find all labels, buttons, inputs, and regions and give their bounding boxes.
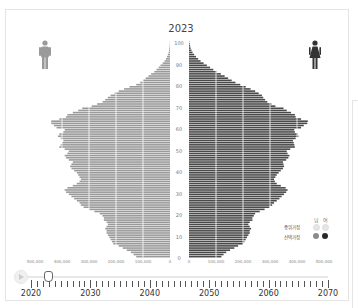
year-tick[interactable] <box>156 281 157 287</box>
x-tick-label: 500,000 <box>309 259 339 264</box>
timeline-track[interactable] <box>28 276 328 278</box>
legend-selected-female-swatch[interactable] <box>322 233 328 239</box>
year-tick[interactable] <box>61 281 62 287</box>
year-tick[interactable] <box>298 281 299 287</box>
year-tick[interactable] <box>227 281 228 287</box>
x-tick-label: 200,000 <box>101 259 131 264</box>
year-tick[interactable] <box>203 281 204 287</box>
year-tick[interactable] <box>215 281 216 287</box>
legend-male-header: 남 <box>314 216 319 223</box>
legend-selected-male-swatch[interactable] <box>313 233 319 239</box>
year-tick[interactable] <box>251 281 252 287</box>
year-tick[interactable] <box>257 281 258 287</box>
year-tick[interactable] <box>286 281 287 287</box>
year-tick[interactable] <box>162 281 163 287</box>
year-tick[interactable] <box>102 281 103 287</box>
age-tick-label: 90 <box>169 62 189 68</box>
legend: 남 여 중위가정 선택가정 <box>284 216 330 246</box>
year-tick[interactable] <box>221 281 222 287</box>
year-tick[interactable] <box>322 281 323 287</box>
age-tick-label: 50 <box>169 148 189 154</box>
year-tick[interactable] <box>150 280 151 288</box>
year-tick[interactable] <box>191 281 192 287</box>
age-tick-label: 70 <box>169 105 189 111</box>
legend-medium-female-swatch[interactable] <box>322 224 329 231</box>
age-tick-label: 100 <box>169 40 189 46</box>
year-tick[interactable] <box>292 281 293 287</box>
year-tick[interactable] <box>43 281 44 287</box>
age-tick-label: 30 <box>169 191 189 197</box>
x-tick-label: 500,000 <box>20 259 50 264</box>
year-tick[interactable] <box>180 281 181 287</box>
year-tick[interactable] <box>90 280 91 288</box>
year-tick[interactable] <box>144 281 145 287</box>
timeline-slider-handle[interactable] <box>44 271 53 282</box>
year-label: 2020 <box>16 289 46 298</box>
x-tick-label: 300,000 <box>74 259 104 264</box>
year-label: 2050 <box>194 289 224 298</box>
legend-row-medium: 중위가정 <box>284 224 300 230</box>
year-tick[interactable] <box>114 281 115 287</box>
year-tick[interactable] <box>185 281 186 287</box>
age-tick-label: 60 <box>169 126 189 132</box>
year-tick[interactable] <box>138 281 139 287</box>
play-icon <box>19 274 24 280</box>
year-tick[interactable] <box>96 281 97 287</box>
x-tick-label: 100,000 <box>128 259 158 264</box>
year-tick[interactable] <box>316 281 317 287</box>
age-tick-label: 10 <box>169 234 189 240</box>
year-tick[interactable] <box>328 280 329 288</box>
x-tick-label: 100,000 <box>201 259 231 264</box>
year-tick[interactable] <box>239 281 240 287</box>
year-tick[interactable] <box>275 281 276 287</box>
year-tick[interactable] <box>31 280 32 288</box>
age-tick-label: 20 <box>169 212 189 218</box>
year-tick[interactable] <box>132 281 133 287</box>
year-tick[interactable] <box>310 281 311 287</box>
year-tick[interactable] <box>168 281 169 287</box>
year-label: 2070 <box>313 289 343 298</box>
year-tick[interactable] <box>84 281 85 287</box>
year-tick[interactable] <box>174 281 175 287</box>
legend-female-header: 여 <box>323 216 328 223</box>
year-label: 2060 <box>254 289 284 298</box>
x-tick-label: 400,000 <box>47 259 77 264</box>
year-tick[interactable] <box>55 281 56 287</box>
age-tick-label: 40 <box>169 169 189 175</box>
year-tick[interactable] <box>280 281 281 287</box>
x-tick-label: 200,000 <box>228 259 258 264</box>
year-tick[interactable] <box>197 281 198 287</box>
year-tick[interactable] <box>263 281 264 287</box>
year-tick[interactable] <box>126 281 127 287</box>
year-tick[interactable] <box>73 281 74 287</box>
year-tick[interactable] <box>37 281 38 287</box>
year-tick[interactable] <box>120 281 121 287</box>
x-tick-label: 0 <box>174 259 204 264</box>
legend-row-selected: 선택가정 <box>284 234 300 240</box>
year-tick[interactable] <box>269 280 270 288</box>
year-tick[interactable] <box>304 281 305 287</box>
year-tick[interactable] <box>79 281 80 287</box>
year-tick[interactable] <box>108 281 109 287</box>
year-tick[interactable] <box>67 281 68 287</box>
age-tick-label: 80 <box>169 83 189 89</box>
year-label: 2040 <box>135 289 165 298</box>
year-tick[interactable] <box>245 281 246 287</box>
play-button[interactable] <box>14 270 28 284</box>
x-tick-label: 400,000 <box>282 259 312 264</box>
year-label: 2030 <box>75 289 105 298</box>
x-tick-label: 300,000 <box>255 259 285 264</box>
year-tick[interactable] <box>233 281 234 287</box>
year-tick[interactable] <box>209 280 210 288</box>
legend-medium-male-swatch[interactable] <box>313 224 320 231</box>
